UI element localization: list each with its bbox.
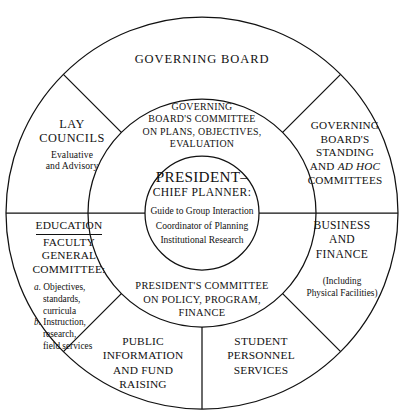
education-item-b-line-1: Instruction, [43,317,86,327]
center-title-line-2: CHIEF PLANNER: [122,186,282,199]
center-roles: Guide to Group Interaction Coordinator o… [122,204,282,248]
sector-governing-board-standing-committees[interactable]: GOVERNING BOARD'S STANDING AND AD HOC CO… [293,119,397,187]
sector-business-line-2: AND [288,233,396,247]
sector-gb-standing-line-5: COMMITTEES [293,174,397,188]
sector-public-information-and-fund-raising[interactable]: PUBLIC INFORMATION AND FUND RAISING [86,334,200,391]
center-title-line-1: PRESIDENT– [122,168,282,185]
gb-committee-line-1: GOVERNING [102,101,302,113]
sector-gb-standing-line-2: BOARD'S [293,133,397,147]
sector-governing-board-label: GOVERNING BOARD [0,52,404,66]
sector-gb-standing-adhoc-italic: AD HOC [338,160,381,172]
sector-gb-standing-line-4: AND AD HOC [293,160,397,174]
gb-committee-line-3: ON PLANS, OBJECTIVES, [102,126,302,138]
sector-education-line-3: COMMITTEE: [6,263,132,277]
pres-committee-line-1: PRESIDENT'S COMMITTEE [97,279,307,293]
sector-gb-standing-and-word: AND [310,160,338,172]
education-item-a-marker: a. [34,282,41,292]
center-role-3: Institutional Research [122,233,282,248]
sector-student-personnel-line-3: SERVICES [208,363,314,377]
sector-public-info-line-3: AND FUND [86,363,200,377]
gb-committee-line-2: BOARD'S COMMITTEE [102,113,302,125]
sector-gb-standing-line-1: GOVERNING [293,119,397,133]
education-item-a-line-1: Objectives, [43,282,85,292]
org-chart-diagram: GOVERNING BOARD LAY COUNCILS Evaluative … [0,0,404,420]
ring-governing-board-committee[interactable]: GOVERNING BOARD'S COMMITTEE ON PLANS, OB… [102,101,302,151]
center-role-1: Guide to Group Interaction [122,204,282,219]
sector-student-personnel-line-2: PERSONNEL [208,348,314,362]
sector-lay-councils-subtitle: Evaluative and Advisory [17,149,127,172]
sector-education-line-2: GENERAL [6,249,132,263]
education-item-b-marker: b. [34,317,41,327]
sector-lay-councils-subtitle-line-2: and Advisory [17,160,127,172]
pres-committee-line-2: ON POLICY, PROGRAM, [97,293,307,307]
sector-business-line-3: FINANCE [288,248,396,262]
center-role-2: Coordinator of Planning [122,219,282,234]
sector-public-info-line-4: RAISING [86,377,200,391]
sector-business-line-1: BUSINESS [288,219,396,233]
core-president-chief-planner[interactable]: PRESIDENT– CHIEF PLANNER: Guide to Group… [122,168,282,248]
sector-gb-standing-line-3: STANDING [293,146,397,160]
sector-student-personnel-services[interactable]: STUDENT PERSONNEL SERVICES [208,334,314,377]
sector-student-personnel-line-1: STUDENT [208,334,314,348]
sector-education-heading: EDUCATION [36,219,103,235]
pres-committee-line-3: FINANCE [97,306,307,320]
gb-committee-line-4: EVALUATION [102,138,302,150]
ring-presidents-committee[interactable]: PRESIDENT'S COMMITTEE ON POLICY, PROGRAM… [97,279,307,320]
sector-governing-board[interactable]: GOVERNING BOARD [0,52,404,66]
sector-education-line-1: FACULTY [6,236,132,250]
sector-public-info-line-1: PUBLIC [86,334,200,348]
sector-public-info-line-2: INFORMATION [86,348,200,362]
